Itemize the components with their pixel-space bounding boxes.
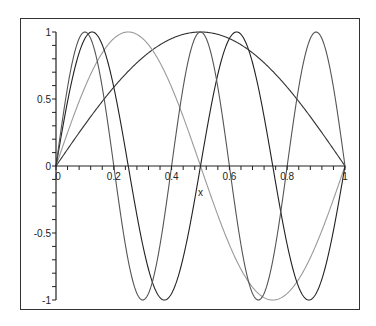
axes: 00.20.40.60.81x10.50-0.5-1 — [34, 27, 348, 306]
x-axis-label: x — [198, 187, 203, 198]
y-tick-label: -1 — [42, 295, 51, 306]
y-tick-label: 0.5 — [37, 94, 51, 105]
series-line-1 — [56, 32, 345, 166]
y-tick-label: 0 — [45, 161, 51, 172]
x-tick-label: 0.4 — [165, 171, 179, 182]
x-tick-label: 0.6 — [222, 171, 236, 182]
x-tick-label: 1 — [342, 171, 348, 182]
x-tick-label: 0.2 — [107, 171, 121, 182]
y-tick-label: 1 — [45, 27, 51, 38]
x-tick-label: 0.8 — [280, 171, 294, 182]
plot-area: 00.20.40.60.81x10.50-0.5-1 — [0, 0, 376, 326]
y-tick-label: -0.5 — [34, 228, 52, 239]
